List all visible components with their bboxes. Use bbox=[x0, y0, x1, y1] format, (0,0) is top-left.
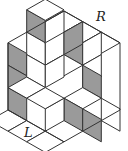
rhombus-tiling-diagram bbox=[0, 0, 128, 151]
label-l: L bbox=[24, 126, 33, 139]
left-rhombus-tile bbox=[83, 109, 102, 142]
label-r: R bbox=[96, 10, 106, 23]
left-rhombus-tile bbox=[101, 98, 120, 131]
